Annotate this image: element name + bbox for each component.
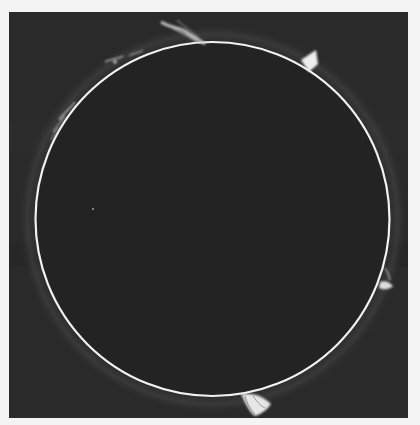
disk-speck: [92, 208, 94, 210]
solar-disk-graphic: [9, 12, 408, 418]
solar-image-frame: [9, 12, 408, 418]
solar-disk: [36, 42, 390, 396]
